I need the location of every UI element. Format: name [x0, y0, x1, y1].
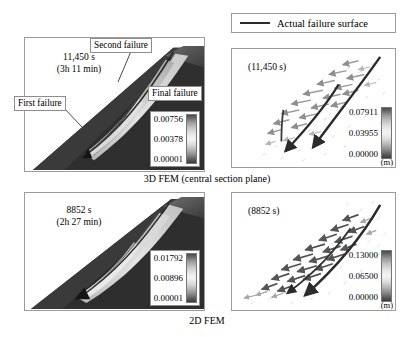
colorbar-bottom-right: 0.13000 0.06500 0.00000: [349, 250, 392, 302]
callout-second-failure: Second failure: [90, 38, 152, 53]
failure-surface-line-icon: [240, 22, 270, 24]
colorbar-ticks-top-right: 0.07911 0.03955 0.00000: [349, 107, 381, 159]
colorbar-ramp-bottom-right: [381, 250, 392, 302]
colorbar-max-top-right: 0.07911: [349, 107, 378, 117]
colorbar-top-right: 0.07911 0.03955 0.00000: [349, 107, 392, 159]
colorbar-top-left: 0.00756 0.00378 0.00001: [150, 111, 200, 167]
callout-first-failure: First failure: [14, 96, 66, 111]
colorbar-mid-top-left: 0.00378: [154, 134, 183, 144]
colorbar-max-top-left: 0.00756: [154, 114, 183, 124]
label-time-converted-top-left: (3h 11 min): [35, 64, 123, 75]
caption-bottom: 2D FEM: [0, 315, 414, 326]
label-time-top-left: 11,450 s: [41, 52, 117, 63]
colorbar-min-top-right: 0.00000: [349, 149, 378, 159]
callout-final-failure: Final failure: [148, 86, 202, 101]
colorbar-min-top-left: 0.00001: [154, 154, 183, 164]
label-time-top-right: (11,450 s): [248, 62, 286, 73]
label-time-bottom-right: (8852 s): [248, 206, 279, 217]
colorbar-ramp-bottom-left: [186, 253, 197, 303]
colorbar-max-bottom-right: 0.13000: [349, 250, 378, 260]
colorbar-ramp-top-right: [381, 107, 392, 159]
label-time-bottom-left: 8852 s: [41, 205, 117, 216]
failure-surface-arc-inner: [285, 84, 338, 151]
colorbar-mid-bottom-left: 0.00896: [154, 273, 183, 283]
panel-2d-fem-contour: 8852 s (2h 27 min) 0.01792 0.00896 0.000…: [24, 192, 205, 311]
colorbar-min-bottom-right: 0.00000: [349, 292, 378, 302]
legend-actual-failure-surface: Actual failure surface: [231, 13, 396, 33]
panel-3d-fem-vectors: (11,450 s) 0.07911 0.03955 0.00000 (m): [231, 48, 396, 168]
label-time-converted-bottom-left: (2h 27 min): [33, 217, 125, 228]
colorbar-mid-top-right: 0.03955: [349, 128, 378, 138]
colorbar-ticks-bottom-right: 0.13000 0.06500 0.00000: [349, 250, 381, 302]
panel-2d-fem-vectors: (8852 s) 0.13000 0.06500 0.00000 (m): [231, 192, 396, 311]
colorbar-ticks-top-left: 0.00756 0.00378 0.00001: [154, 114, 186, 164]
colorbar-ticks-bottom-left: 0.01792 0.00896 0.00001: [154, 253, 186, 303]
caption-top: 3D FEM (central section plane): [0, 173, 414, 184]
legend-label: Actual failure surface: [277, 18, 368, 29]
colorbar-mid-bottom-right: 0.06500: [349, 271, 378, 281]
colorbar-bottom-left: 0.01792 0.00896 0.00001: [150, 250, 200, 306]
figure-root: Actual failure surface: [0, 0, 414, 337]
colorbar-min-bottom-left: 0.00001: [154, 293, 183, 303]
failure-surface-arc-short: [281, 110, 283, 141]
colorbar-ramp-top-left: [186, 114, 197, 164]
colorbar-max-bottom-left: 0.01792: [154, 253, 183, 263]
